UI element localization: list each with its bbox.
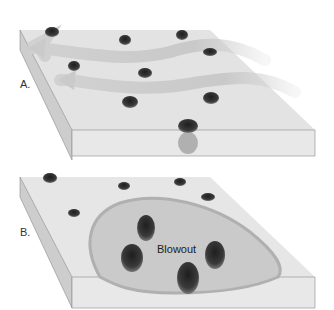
shrub-icon [43,173,57,183]
shrub-icon [174,178,186,186]
panel-a-block [20,27,315,160]
blowout-diagram [0,0,334,310]
blowout-label: Blowout [157,243,196,255]
panel-a-label: A. [20,78,30,90]
tall-shrub-icon [137,215,155,241]
shrub-icon [178,119,198,133]
tall-shrub-icon [121,244,143,272]
panel-b-label: B. [20,226,30,238]
shrub-icon [45,27,59,37]
shrub-icon [122,96,138,108]
tall-shrub-icon [177,262,199,294]
shrub-icon [118,182,130,190]
shrub-icon [138,68,152,78]
panel-b-block [20,173,315,308]
shrub-icon [68,209,80,217]
shrub-icon [201,193,215,201]
shrub-icon [203,48,217,56]
shrub-icon [68,61,80,71]
shrub-roots-icon [178,132,198,154]
shrub-icon [203,92,219,104]
tall-shrub-icon [205,241,225,269]
shrub-icon [176,30,188,40]
shrub-icon [119,35,131,45]
